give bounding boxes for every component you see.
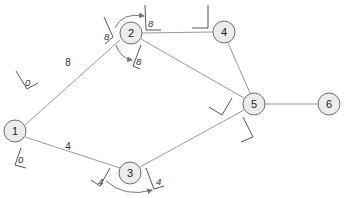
node-label: 3 xyxy=(127,167,133,179)
arc-arrow-node2-bottom xyxy=(116,45,132,60)
node-3[interactable]: 3 xyxy=(119,162,141,184)
marker-value: 4 xyxy=(156,176,161,187)
marker-value: 0 xyxy=(25,77,31,88)
edge-2-5 xyxy=(141,39,244,98)
marker-node3-outgoing: 4 xyxy=(146,168,164,189)
marker-node2-incoming: 8 xyxy=(104,17,113,44)
edge-1-2 xyxy=(25,40,120,125)
marker-value: 8 xyxy=(104,31,110,42)
marker-node4 xyxy=(192,5,208,28)
marker-node5-from2 xyxy=(209,98,232,115)
node-6[interactable]: 6 xyxy=(318,93,340,115)
marker-node1-bottom: 0 xyxy=(15,148,26,168)
marker-value: 8 xyxy=(148,18,154,29)
node-label: 4 xyxy=(221,26,227,38)
edge-weight-1-3: 4 xyxy=(65,141,71,152)
edge-3-5 xyxy=(140,110,244,167)
node-label: 2 xyxy=(128,27,134,39)
marker-value: 0 xyxy=(18,154,24,165)
node-4[interactable]: 4 xyxy=(213,21,235,43)
marker-node2-to5: 8 xyxy=(133,45,142,69)
node-label: 5 xyxy=(251,98,257,110)
node-1[interactable]: 1 xyxy=(4,120,26,142)
marker-node2-to4: 8 xyxy=(145,5,161,30)
node-5[interactable]: 5 xyxy=(243,93,265,115)
node-2[interactable]: 2 xyxy=(120,22,142,44)
edge-weight-1-2: 8 xyxy=(65,57,71,68)
marker-node5-from3 xyxy=(241,117,253,142)
node-label: 6 xyxy=(326,98,332,110)
marker-node1-top: 0 xyxy=(16,71,38,89)
edge-1-3 xyxy=(25,137,120,168)
edge-4-5 xyxy=(228,43,250,93)
marker-value: 8 xyxy=(136,56,142,67)
marker-value: 4 xyxy=(98,176,103,187)
edge-2-4 xyxy=(142,32,213,33)
node-label: 1 xyxy=(12,125,18,137)
marker-node3-incoming: 4 xyxy=(91,168,110,187)
network-diagram: 8 4 0 0 8 8 8 4 4 xyxy=(0,0,346,198)
